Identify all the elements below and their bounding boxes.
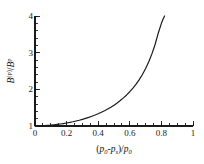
axis-lines (35, 16, 193, 126)
y-axis-label: B(p)/Bp (6, 58, 16, 83)
plot-canvas (0, 0, 204, 164)
chart-figure: 00.20.40.60.81 1234 (p0-ps)/p0 B(p)/Bp (0, 0, 204, 164)
x-axis-ticks (35, 121, 193, 126)
y-label-slash: / (6, 68, 16, 71)
y-axis-ticks (35, 16, 40, 126)
x-tick-label: 0.2 (61, 129, 72, 138)
x-tick-label: 0.8 (156, 129, 167, 138)
y-tick-label: 2 (25, 85, 33, 94)
y-label-denominator-base: B (6, 62, 16, 68)
x-tick-label: 1 (191, 129, 196, 138)
y-label-numerator-superscript: (p) (5, 70, 12, 78)
y-tick-label: 4 (25, 12, 33, 21)
data-series-curve (35, 16, 165, 126)
y-tick-label: 3 (25, 48, 33, 57)
x-axis-label: (p0-ps)/p0 (96, 145, 131, 155)
x-label-denominator-subscript: 0 (128, 148, 131, 155)
y-label-denominator-superscript: p (5, 58, 12, 61)
y-label-numerator-base: B (6, 78, 16, 84)
x-tick-label: 0 (33, 129, 38, 138)
x-tick-label: 0.4 (93, 129, 104, 138)
x-tick-label: 0.6 (124, 129, 135, 138)
y-tick-label: 1 (25, 122, 33, 131)
